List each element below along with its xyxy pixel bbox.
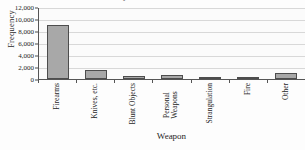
y-tick-label: 4,000 [18,53,34,60]
x-label-cell: Strangulation [191,83,229,131]
x-axis-labels: FirearmsKnives, etc.Blunt ObjectsPersona… [38,83,305,131]
x-tick-label: Strangulation [210,43,218,83]
y-tick-label: 2,000 [18,65,34,72]
x-label-cell: Fire [229,83,267,131]
x-label-cell: Other [267,83,305,131]
x-label-cell: Firearms [38,83,76,131]
y-tick-label: 12,000 [15,5,34,12]
x-tick-label: Firearms [57,56,65,83]
y-tick-label: 8,000 [18,29,34,36]
chart-title: Weapon Use in Homicides [0,0,305,1]
y-tick-label: 10,000 [15,17,34,24]
x-tick-label: Fire [248,71,256,83]
y-tick-label: 6,000 [18,41,34,48]
x-label-cell: Blunt Objects [114,83,152,131]
y-axis-ticks: 02,0004,0006,0008,00010,00012,000 [0,8,38,80]
bar-chart: Weapon Use in Homicides Frequency 02,000… [0,0,305,150]
x-axis-title: Weapon [38,131,305,141]
x-tick-label: Blunt Objects [133,42,141,83]
x-tick-label: Personal Weapons [171,39,187,83]
x-label-cell: Personal Weapons [152,83,190,131]
y-tick-label: 0 [31,77,35,84]
bar-slot [229,8,267,79]
x-label-cell: Knives, etc. [76,83,114,131]
x-tick-label: Other [286,66,294,83]
x-tick-label: Knives, etc. [95,47,103,83]
